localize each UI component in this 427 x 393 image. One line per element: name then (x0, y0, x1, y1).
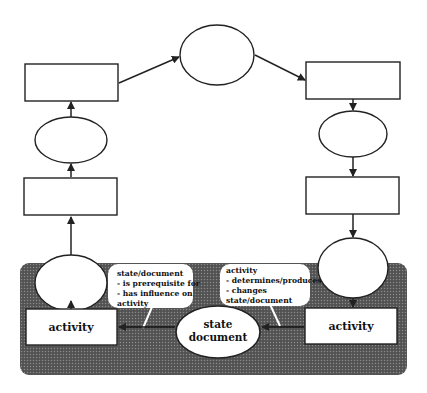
right-activity-box-middle (306, 177, 399, 214)
callout-left-line4: activity (117, 299, 149, 308)
callout-left-line3: - has influence on (117, 289, 193, 298)
right-activity-box-upper (306, 62, 400, 99)
activity-left-label: activity (48, 321, 94, 334)
top-state-ellipse (180, 25, 254, 85)
activity-right-label: activity (328, 320, 374, 333)
left-state-ellipse (35, 117, 107, 163)
callout-left-line1: state/document (117, 269, 184, 278)
right-bottom-state-ellipse (318, 238, 388, 298)
right-state-ellipse (319, 111, 387, 157)
process-diagram: activity activity state document state/d… (0, 0, 427, 393)
left-activity-box-upper (25, 64, 118, 101)
callout-right-line2: - determines/produces (226, 276, 322, 285)
state-label-line2: document (189, 331, 248, 343)
callout-right-line1: activity (226, 266, 258, 275)
state-label-line1: state (203, 318, 232, 330)
callout-right-line4: state/document (226, 296, 293, 305)
left-activity-box-middle (24, 178, 117, 215)
callout-right-line3: - changes (226, 286, 267, 295)
callout-left-line2: - is prerequisite for (117, 279, 201, 288)
